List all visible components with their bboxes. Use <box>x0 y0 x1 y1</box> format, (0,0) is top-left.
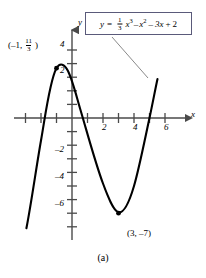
y-tick-label-2: 2 <box>60 66 65 75</box>
x-axis-label: x <box>191 110 195 119</box>
x-tick-label-2: 2 <box>102 123 107 132</box>
cubic-curve <box>26 64 157 228</box>
figure-caption: (a) <box>0 252 206 263</box>
local-max-denominator: 3 <box>26 45 32 53</box>
equation-leader-line <box>112 37 148 78</box>
local-max-annotation: (–1, 11 3 ) <box>8 38 38 53</box>
equation-text: y = 1 3 x3 – x2 – 3x + 2 <box>100 16 177 31</box>
term1-exponent: 3 <box>130 17 133 24</box>
equation-equals: = <box>107 19 112 29</box>
equation-term-2: x2 <box>139 19 146 29</box>
equation-term-4: 2 <box>173 19 178 29</box>
x-tick-label-4: 4 <box>133 123 138 132</box>
y-axis-label: y <box>78 18 82 27</box>
fraction-numerator: 1 <box>117 16 123 23</box>
y-tick-label-4: 4 <box>60 40 65 49</box>
term2-exponent: 2 <box>143 17 146 24</box>
equation-callout-box: y = 1 3 x3 – x2 – 3x + 2 <box>85 12 192 35</box>
local-max-numerator: 11 <box>24 38 33 45</box>
local-max-close: ) <box>35 41 38 50</box>
y-tick-label-minus-4: –4 <box>55 172 64 181</box>
local-min-annotation: (3, –7) <box>127 229 151 238</box>
local-max-point <box>54 66 59 71</box>
local-max-fraction: 11 3 <box>24 38 33 53</box>
equation-minus-2: – <box>149 19 154 29</box>
equation-minus-1: – <box>134 19 139 29</box>
equation-fraction: 1 3 <box>117 16 123 31</box>
equation-term-1: x3 <box>126 19 133 29</box>
equation-lhs: y <box>100 19 104 29</box>
equation-plus: + <box>166 19 171 29</box>
local-max-open: (–1, <box>8 41 22 50</box>
local-min-point <box>116 211 121 216</box>
figure-container: y = 1 3 x3 – x2 – 3x + 2 y x 2 4 6 4 2 –… <box>0 0 206 278</box>
y-tick-label-minus-2: –2 <box>55 145 64 154</box>
y-tick-label-minus-6: –6 <box>55 199 64 208</box>
equation-term-3: 3x <box>155 19 164 29</box>
x-tick-label-6: 6 <box>164 123 169 132</box>
fraction-denominator: 3 <box>117 23 123 31</box>
